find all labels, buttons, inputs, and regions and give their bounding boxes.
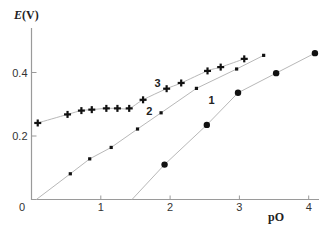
x-tick-label-4: 4 (306, 201, 312, 213)
series-1-point (312, 50, 318, 56)
series-lines (36, 53, 315, 199)
x-axis-title: pO (268, 210, 284, 224)
series-3-point (88, 106, 95, 113)
series-2-point (235, 67, 238, 70)
series-2-point (136, 127, 139, 130)
series-3-point (114, 105, 121, 112)
y-axis-title-italic: E (13, 8, 22, 22)
series-2-label: 2 (146, 105, 152, 117)
series-3-point (217, 64, 224, 71)
y-tick-label-0.4: 0.4 (12, 67, 27, 79)
series-2-line (36, 55, 263, 199)
ticks: 12340.20.4 (12, 67, 312, 214)
series-2-point (88, 157, 91, 160)
series-3-point (126, 105, 133, 112)
series-1-label: 1 (209, 94, 215, 106)
series-3-point (78, 107, 85, 114)
chart: E(V) pO 0 12340.20.4 123 (0, 0, 329, 227)
series-3-point (140, 96, 147, 103)
y-axis-title-unit: (V) (22, 8, 39, 22)
series-3-point (241, 55, 248, 62)
series-marks (34, 50, 318, 175)
y-axis-title: E(V) (13, 8, 39, 22)
series-3-point (163, 85, 170, 92)
series-3-point (178, 79, 185, 86)
series-3-label: 3 (155, 77, 161, 89)
series-1-point (273, 70, 279, 76)
series-1-point (204, 122, 210, 128)
series-2-point (195, 87, 198, 90)
series-2-point (262, 54, 265, 57)
series-1-point (161, 161, 167, 167)
x-tick-label-2: 2 (167, 201, 173, 213)
series-3-point (103, 105, 110, 112)
series-3-point (34, 119, 41, 126)
series-1-point (235, 90, 241, 96)
series-3-point (64, 111, 71, 118)
x-tick-label-3: 3 (236, 201, 242, 213)
y-tick-label-0.2: 0.2 (12, 130, 27, 142)
series-2-point (110, 146, 113, 149)
series-2-point (69, 172, 72, 175)
series-3-point (204, 67, 211, 74)
series-2-point (159, 111, 162, 114)
x-tick-label-1: 1 (98, 201, 104, 213)
axes: E(V) pO 0 (13, 8, 319, 224)
origin-label: 0 (19, 201, 25, 213)
